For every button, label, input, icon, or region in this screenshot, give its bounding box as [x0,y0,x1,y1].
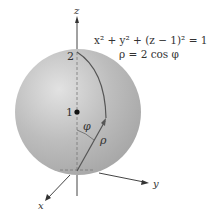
y-axis-arrow-icon [141,180,149,185]
y-axis [99,173,144,182]
z-axis-arrow-icon [75,16,79,23]
x-axis-label: x [38,200,44,211]
y-axis-label: y [152,178,159,189]
rho-label: ρ [99,134,107,147]
z-axis-label: z [73,5,80,16]
equation-spherical: ρ = 2 cos φ [119,48,179,60]
sphere-diagram: z x y 2 1 φ ρ x² + y² + (z − 1)² = 1 ρ =… [0,0,209,222]
z-tick-1: 1 [66,106,73,119]
x-axis [48,175,70,198]
z-tick-2: 2 [67,50,74,63]
center-point [74,109,79,114]
x-axis-arrow-icon [45,194,51,201]
phi-label: φ [83,120,91,133]
equation-cartesian: x² + y² + (z − 1)² = 1 [94,34,207,46]
